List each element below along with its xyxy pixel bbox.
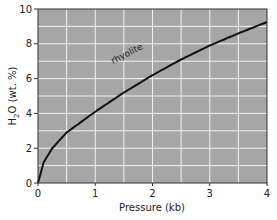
y-tick-label: 8: [26, 38, 32, 49]
y-tick-label: 0: [26, 178, 32, 189]
y-tick-label: 4: [26, 108, 32, 119]
chart: 012340246810 rhyolite Pressure (kb) H2O …: [0, 0, 277, 220]
x-tick-label: 3: [207, 188, 213, 199]
y-tick-label: 10: [19, 4, 32, 15]
x-tick-label: 1: [92, 188, 98, 199]
x-tick-label: 0: [35, 188, 41, 199]
x-tick-label: 4: [264, 188, 270, 199]
y-tick-label: 6: [26, 73, 32, 84]
y-tick-label: 2: [26, 143, 32, 154]
x-tick-label: 2: [149, 188, 155, 199]
x-axis-label: Pressure (kb): [119, 202, 185, 213]
y-axis-label: H2O (wt. %): [7, 66, 21, 125]
